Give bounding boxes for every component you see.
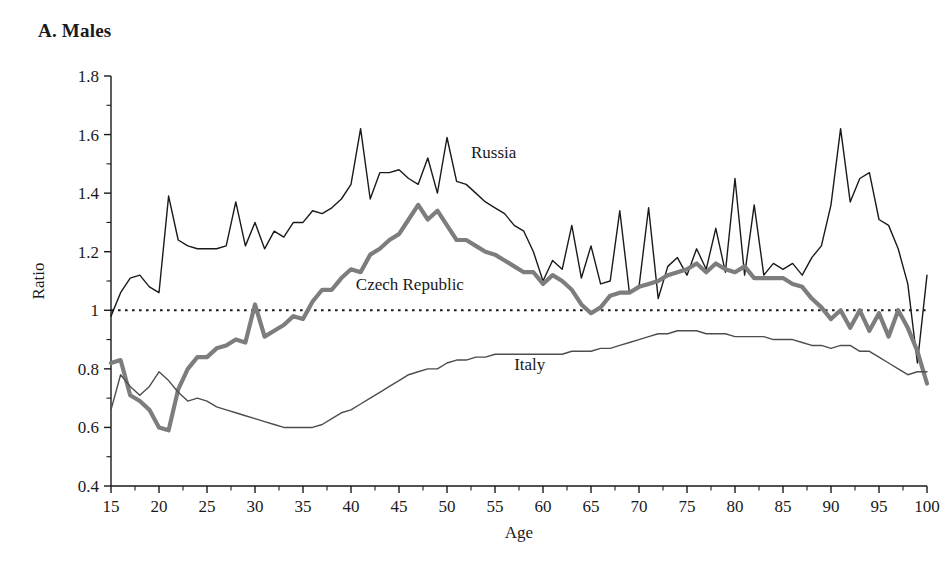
x-tick-label: 75 <box>679 497 696 516</box>
x-tick-label: 70 <box>631 497 648 516</box>
x-tick-label: 20 <box>151 497 168 516</box>
y-tick-label: 1.8 <box>78 67 99 86</box>
y-tick-label: 1.2 <box>78 243 99 262</box>
x-tick-label: 65 <box>583 497 600 516</box>
chart-canvas: 0.40.60.811.21.41.61.8152025303540455055… <box>0 0 951 577</box>
series-layer <box>111 129 927 431</box>
x-tick-label: 50 <box>439 497 456 516</box>
chart-figure: A. Males 0.40.60.811.21.41.61.8152025303… <box>0 0 951 577</box>
annotation-layer: RussiaCzech RepublicItaly <box>356 143 546 374</box>
axis-spines <box>111 76 927 486</box>
series-label-italy: Italy <box>514 355 546 374</box>
y-tick-label: 0.6 <box>78 418 99 437</box>
x-tick-label: 100 <box>914 497 940 516</box>
x-axis-title: Age <box>505 523 533 542</box>
x-tick-label: 55 <box>487 497 504 516</box>
y-tick-label: 1 <box>91 301 100 320</box>
axes-layer: 0.40.60.811.21.41.61.8152025303540455055… <box>29 67 940 542</box>
series-label-czech-republic: Czech Republic <box>356 275 465 294</box>
x-tick-label: 90 <box>823 497 840 516</box>
y-tick-label: 0.4 <box>78 477 100 496</box>
y-tick-label: 0.8 <box>78 360 99 379</box>
x-tick-label: 25 <box>199 497 216 516</box>
x-tick-label: 40 <box>343 497 360 516</box>
series-line-italy <box>111 331 927 428</box>
svg-text:Ratio: Ratio <box>29 263 48 300</box>
x-tick-label: 30 <box>247 497 264 516</box>
y-axis-title: Ratio <box>29 263 48 300</box>
x-tick-label: 95 <box>871 497 888 516</box>
y-tick-label: 1.6 <box>78 126 99 145</box>
x-tick-label: 45 <box>391 497 408 516</box>
x-tick-label: 80 <box>727 497 744 516</box>
y-tick-label: 1.4 <box>78 184 100 203</box>
x-tick-label: 85 <box>775 497 792 516</box>
x-tick-label: 35 <box>295 497 312 516</box>
series-line-czech-republic <box>111 205 927 430</box>
series-line-russia <box>111 129 927 363</box>
series-label-russia: Russia <box>471 143 517 162</box>
x-tick-label: 15 <box>103 497 120 516</box>
x-tick-label: 60 <box>535 497 552 516</box>
